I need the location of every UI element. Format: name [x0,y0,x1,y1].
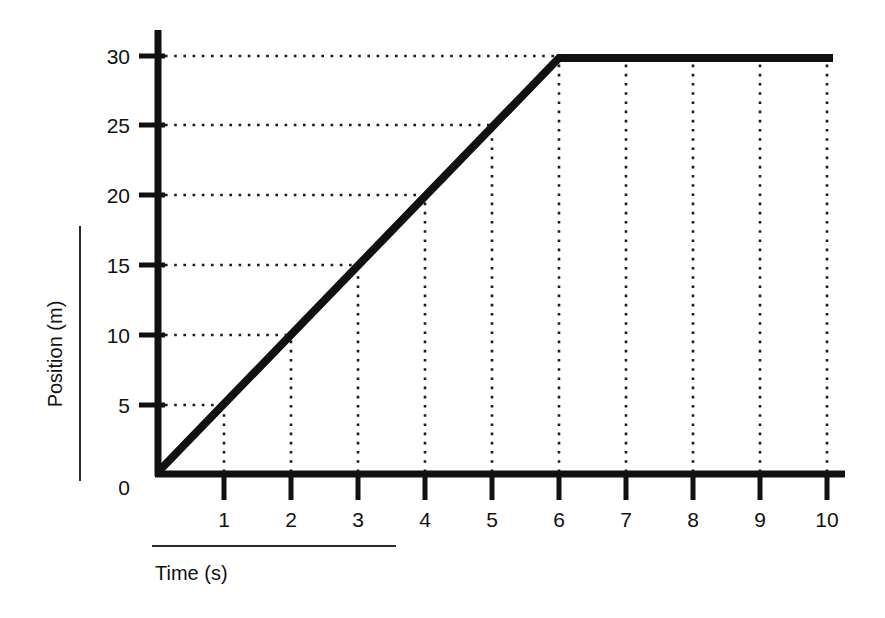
x-tick-label-8: 8 [687,508,699,531]
figure-container: 30 25 20 15 10 5 0 1 2 3 4 5 6 7 8 9 10 … [0,0,885,618]
x-tick-label-10: 10 [815,508,838,531]
position-time-chart: 30 25 20 15 10 5 0 1 2 3 4 5 6 7 8 9 10 … [0,0,885,618]
x-axis-title: Time (s) [155,562,228,584]
y-tick-label-25: 25 [107,114,130,137]
x-tick-label-1: 1 [218,508,230,531]
chart-background [0,0,885,618]
x-tick-label-6: 6 [553,508,565,531]
y-axis-title: Position (m) [44,301,66,408]
y-tick-label-0: 0 [118,476,130,499]
x-tick-label-3: 3 [352,508,364,531]
x-tick-label-2: 2 [285,508,297,531]
x-tick-label-4: 4 [419,508,431,531]
x-tick-label-7: 7 [620,508,632,531]
y-tick-label-20: 20 [107,184,130,207]
x-tick-label-9: 9 [754,508,766,531]
y-tick-label-5: 5 [118,394,130,417]
y-tick-label-10: 10 [107,324,130,347]
y-tick-label-30: 30 [107,45,130,68]
y-tick-label-15: 15 [107,254,130,277]
x-tick-label-5: 5 [486,508,498,531]
